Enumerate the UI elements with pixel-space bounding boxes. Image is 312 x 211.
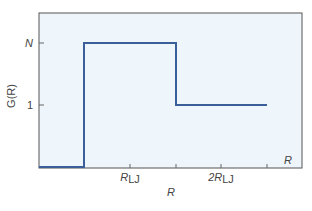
y-tick-label-1: 1: [27, 99, 33, 111]
x-tick-label-2rlj: 2RLJ: [207, 171, 234, 185]
chart: N 1 G(R) RLJ 2RLJ R R: [0, 0, 312, 211]
plot-area: [39, 13, 302, 168]
y-axis-label: G(R): [5, 84, 17, 108]
x-tick-label-rlj: RLJ: [120, 171, 140, 185]
x-axis-label: R: [167, 186, 175, 198]
x-axis-end-label: R: [284, 154, 292, 166]
y-tick-label-n: N: [25, 37, 33, 49]
